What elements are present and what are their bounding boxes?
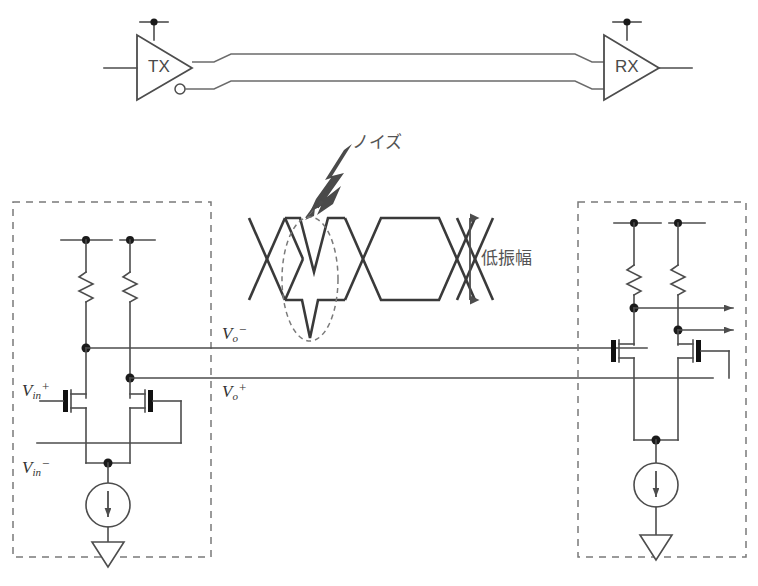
vo-plus-label: Vo+ [222, 383, 245, 400]
rx-mosfet-left-gate [611, 340, 616, 362]
eye-diagram [249, 218, 493, 338]
trace-positive [192, 54, 604, 62]
vo-plus-base: V [222, 382, 232, 401]
vin-plus-sub: in [32, 389, 41, 401]
vin-minus-sup: − [42, 456, 49, 471]
vo-minus-base: V [222, 324, 232, 343]
vin-minus-sub: in [32, 466, 41, 478]
vo-minus-label: Vo− [222, 325, 245, 342]
tx-label: TX [148, 58, 170, 75]
transmission-line-pair [185, 54, 604, 89]
tx-invert-bubble [175, 84, 185, 94]
figure-canvas: TX RX ノイズ 低振幅 Vin+ Vin− Vo− Vo+ [0, 0, 758, 586]
rx-supply-node [623, 18, 630, 25]
noise-highlight-ellipse [282, 217, 338, 341]
vo-plus-sub: o [232, 390, 238, 402]
vin-plus-sup: + [42, 379, 49, 394]
rx-circuit [611, 219, 733, 560]
noise-bolt-icon [305, 144, 352, 220]
low-amplitude-label: 低振幅 [481, 250, 532, 267]
noise-label: ノイズ [352, 134, 402, 151]
vin-minus-base: V [22, 458, 32, 477]
vo-minus-sub: o [232, 332, 238, 344]
vo-plus-sup: + [239, 380, 246, 395]
tx-ground-symbol [92, 542, 124, 567]
circuit-diagram [0, 0, 758, 586]
rx-label: RX [615, 58, 639, 75]
vin-plus-base: V [22, 381, 32, 400]
vo-minus-sup: − [239, 322, 246, 337]
vin-plus-label: Vin+ [22, 382, 48, 399]
trace-negative [185, 81, 604, 89]
vin-minus-label: Vin− [22, 459, 48, 476]
tx-supply-node [150, 18, 157, 25]
tx-circuit [37, 236, 181, 567]
